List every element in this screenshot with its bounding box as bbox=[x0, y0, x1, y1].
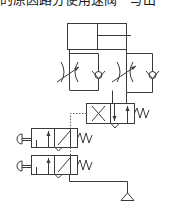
cylinder bbox=[68, 24, 132, 50]
manual-valve-top bbox=[17, 129, 92, 156]
air-source bbox=[70, 175, 135, 201]
manual-valve-bottom bbox=[17, 156, 92, 179]
main-valve bbox=[71, 104, 150, 129]
pneumatic-circuit-diagram bbox=[0, 0, 183, 212]
flow-control-left bbox=[57, 50, 105, 91]
flow-control-right bbox=[112, 50, 159, 93]
